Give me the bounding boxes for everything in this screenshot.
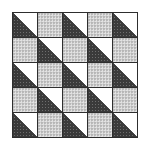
dark-triangle-icon	[38, 38, 62, 62]
light-square-cell	[113, 88, 137, 112]
dark-triangle-icon	[113, 113, 137, 137]
light-square-cell	[88, 63, 112, 87]
light-square-cell	[13, 88, 37, 112]
dark-triangle-icon	[113, 13, 137, 37]
light-square-cell	[13, 38, 37, 62]
half-square-triangle-cell	[13, 63, 37, 87]
dark-triangle-icon	[88, 88, 112, 112]
dark-triangle-icon	[38, 88, 62, 112]
dark-triangle-icon	[88, 38, 112, 62]
half-square-triangle-cell	[113, 113, 137, 137]
dark-triangle-icon	[13, 63, 37, 87]
dark-triangle-icon	[63, 63, 87, 87]
light-square-cell	[63, 38, 87, 62]
dark-triangle-icon	[13, 13, 37, 37]
half-square-triangle-cell	[113, 13, 137, 37]
light-square-cell	[113, 38, 137, 62]
dark-triangle-icon	[63, 113, 87, 137]
dark-triangle-icon	[13, 113, 37, 137]
half-square-triangle-cell	[38, 38, 62, 62]
half-square-triangle-cell	[113, 63, 137, 87]
dark-triangle-icon	[63, 13, 87, 37]
light-square-cell	[38, 13, 62, 37]
half-square-triangle-cell	[13, 113, 37, 137]
half-square-triangle-cell	[63, 13, 87, 37]
dark-triangle-icon	[113, 63, 137, 87]
half-square-triangle-cell	[88, 38, 112, 62]
half-square-triangle-cell	[13, 13, 37, 37]
light-square-cell	[63, 88, 87, 112]
light-square-cell	[38, 63, 62, 87]
half-square-triangle-cell	[88, 88, 112, 112]
light-square-cell	[88, 113, 112, 137]
half-square-triangle-cell	[63, 63, 87, 87]
half-square-triangle-cell	[63, 113, 87, 137]
quilt-grid	[12, 12, 138, 138]
light-square-cell	[38, 113, 62, 137]
light-square-cell	[88, 13, 112, 37]
half-square-triangle-cell	[38, 88, 62, 112]
